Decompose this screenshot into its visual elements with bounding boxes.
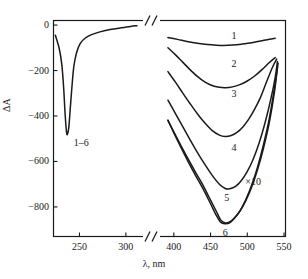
- axis-break-marks: [143, 16, 160, 242]
- x-axis-title: λ, nm: [0, 259, 308, 269]
- plot-frame: [54, 21, 286, 237]
- left-x-tick-label-0: 250: [65, 242, 93, 252]
- curve-label-2: 2: [226, 59, 242, 69]
- curve-label-4: 4: [226, 143, 242, 153]
- right-x-tick-label-2: 500: [233, 242, 261, 252]
- left-x-tick-label-1: 300: [112, 242, 140, 252]
- right-x-tick-label-3: 550: [270, 242, 298, 252]
- x-axis-ticks: [79, 233, 284, 237]
- y-axis-title: ΔA: [1, 98, 12, 112]
- uv-band-curve: [55, 26, 137, 135]
- y-tick-label-0: 0: [0, 20, 49, 30]
- curve-4: [168, 61, 277, 189]
- right-x-tick-label-0: 400: [160, 242, 188, 252]
- curve-label-5: 5: [219, 193, 235, 203]
- curve-1: [168, 38, 275, 46]
- y-tick-label-2: −400: [0, 111, 49, 121]
- curve-label-3: 3: [226, 89, 242, 99]
- figure-chart: ΔA λ, nm 0−200−400−600−80025030040045050…: [0, 0, 308, 279]
- curve-label-6: 6: [217, 228, 233, 238]
- chart-canvas: [0, 0, 308, 279]
- y-tick-label-4: −800: [0, 202, 49, 212]
- y-tick-label-1: −200: [0, 66, 49, 76]
- right-x-tick-label-1: 450: [197, 242, 225, 252]
- curve-2: [168, 48, 275, 88]
- curve-label-1: 1: [226, 31, 242, 41]
- y-tick-label-3: −600: [0, 156, 49, 166]
- annotation-0: 1–6: [65, 138, 97, 148]
- annotation-1: ×10: [237, 177, 269, 187]
